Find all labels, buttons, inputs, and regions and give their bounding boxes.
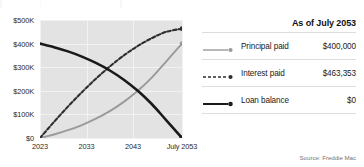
gridline-horizontal	[40, 138, 182, 139]
chart-panel: $0$100K$200K$300K$400K$500K 202320332043…	[0, 0, 196, 167]
legend-value-interest: $463,353	[323, 69, 356, 78]
legend-label-loan-balance: Loan balance	[241, 96, 347, 105]
x-axis-tick-label: 2033	[79, 142, 95, 151]
y-axis-tick-label: $300K	[0, 63, 34, 72]
legend-row-loan-balance[interactable]: Loan balance $0	[202, 86, 356, 114]
y-axis-tick-label: $400K	[0, 39, 34, 48]
chart-svg	[40, 20, 182, 138]
x-axis-tick-label: 2043	[125, 142, 141, 151]
series-line-interest-paid	[40, 29, 182, 138]
loan-balance-swatch-icon	[202, 95, 236, 105]
series-line-loan-balance	[40, 44, 182, 138]
gridline-vertical	[182, 20, 183, 138]
y-axis-tick-label: $100K	[0, 110, 34, 119]
x-axis-tick-label: 2023	[32, 142, 48, 151]
legend-value-loan-balance: $0	[347, 96, 356, 105]
principal-paid-swatch-icon	[202, 41, 236, 51]
endpoint-dot-interest-paid	[180, 26, 182, 31]
y-axis-tick-label: $200K	[0, 86, 34, 95]
legend-row-principal[interactable]: Principal paid $400,000	[202, 32, 356, 59]
plot-area	[40, 20, 182, 138]
source-attribution: Source: Freddie Mac	[300, 154, 356, 161]
y-axis-tick-label: $0	[0, 134, 34, 143]
top-edge-artifact	[0, 0, 182, 8]
series-line-principal-paid	[40, 44, 182, 138]
legend-container: As of July 2053 Principal paid $400,000	[202, 18, 356, 114]
legend-label-interest: Interest paid	[241, 69, 323, 78]
legend-panel: As of July 2053 Principal paid $400,000	[196, 0, 364, 167]
legend-row-interest[interactable]: Interest paid $463,353	[202, 59, 356, 86]
y-axis-tick-label: $500K	[0, 16, 34, 25]
legend-title: As of July 2053	[202, 18, 356, 32]
legend-value-principal: $400,000	[323, 42, 356, 51]
x-axis-tick-label: July 2053	[167, 142, 198, 151]
legend-label-principal: Principal paid	[241, 42, 323, 51]
interest-paid-swatch-icon	[202, 68, 236, 78]
